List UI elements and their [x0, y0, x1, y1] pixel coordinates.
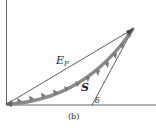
- ep-vector-line: [7, 29, 133, 104]
- figure-caption: (b): [68, 112, 79, 121]
- s-label: S: [81, 81, 89, 94]
- delta-label: δ: [95, 96, 100, 105]
- s-curve-arrows: [17, 29, 133, 104]
- phasor-diagram: EP S δ (b): [0, 0, 156, 128]
- ep-label: EP: [55, 54, 69, 68]
